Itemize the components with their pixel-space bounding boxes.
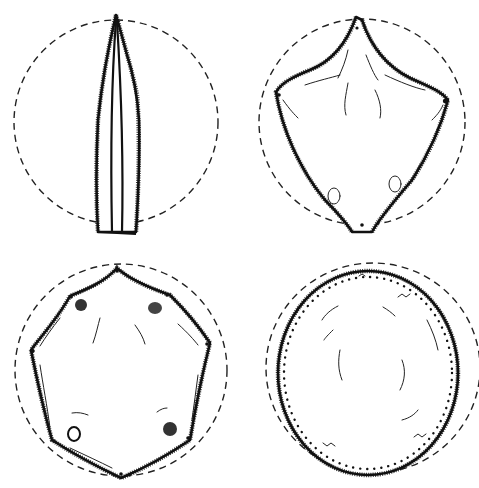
panel-2-dot-bottom <box>360 223 364 227</box>
panel-2-dot-top <box>355 26 358 29</box>
panel-3-vertex-dot-4 <box>52 439 56 443</box>
panel-3-vertex-dot-5 <box>119 472 123 476</box>
panel-4-oval-leaf <box>266 263 479 475</box>
panel-3-spot-top-right <box>148 302 162 314</box>
panel-3-heptagon-leaf <box>15 264 227 478</box>
panel-2-leaf-outline <box>276 17 448 232</box>
panel-3-spot-bottom-right <box>163 422 177 436</box>
panel-2-dot-left <box>277 93 281 97</box>
panel-3-vertex-dot-7 <box>205 342 209 346</box>
panel-3-leaf-outline <box>31 268 210 478</box>
panel-3-vertex-dot-6 <box>186 436 190 440</box>
panel-2-dot-right <box>443 99 447 103</box>
panel-3-vertex-dot-1 <box>115 269 119 273</box>
illustration-canvas <box>0 0 479 488</box>
panel-1-narrow-leaf <box>14 15 218 234</box>
panel-3-vertex-dot-2 <box>69 295 73 299</box>
panel-3-spot-top-left <box>75 299 87 311</box>
panel-3-vertex-dot-3 <box>31 349 35 353</box>
panel-3-vertex-dot-8 <box>165 293 169 297</box>
panel-2-kite-leaf <box>259 17 465 232</box>
